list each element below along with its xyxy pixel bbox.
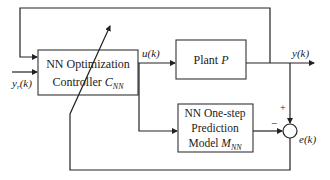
controller-label-line1: NN Optimization [46,57,130,71]
predictor-label-line1: NN One-step [185,107,246,120]
block-diagram: NN Optimization Controller CNN Plant P N… [0,0,330,180]
control-to-predictor-line [139,63,177,131]
output-signal-label: y(k) [291,47,309,60]
error-signal-label: e(k) [299,133,316,146]
predictor-label-line2: Prediction [191,122,239,134]
plant-label: Plant P [193,53,229,67]
reference-signal-label: yr(k) [11,77,32,91]
minus-sign: − [271,117,277,129]
plus-sign: + [280,102,286,113]
control-signal-label: u(k) [142,47,160,60]
summing-junction [283,124,297,138]
